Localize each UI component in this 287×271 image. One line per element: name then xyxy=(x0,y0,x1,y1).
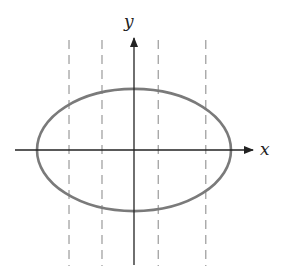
y-axis-label: y xyxy=(123,11,134,31)
dashed-lines xyxy=(69,40,206,266)
ellipse-diagram: x y xyxy=(0,0,287,271)
x-axis-label: x xyxy=(260,139,270,159)
